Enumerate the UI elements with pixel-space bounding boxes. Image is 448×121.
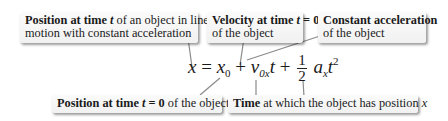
callout-text: Position at time — [57, 96, 142, 110]
callout-text: = 0 — [145, 96, 164, 110]
callout-text: Constant acceleration — [323, 13, 437, 27]
callout-text: motion with constant acceleration — [25, 27, 193, 40]
callout-text: Time — [233, 96, 260, 110]
callout-text: of an object in linear — [113, 13, 218, 27]
eq-exponent: 2 — [333, 55, 339, 67]
callout-var: x — [422, 96, 427, 110]
frac-num: 1 — [297, 53, 307, 69]
eq-plus: + — [235, 56, 246, 77]
callout-text: Position at time — [25, 13, 110, 27]
kinematic-equation: x = x0 + v0xt + 12 axt2 — [188, 53, 339, 84]
eq-v-sub: 0x — [259, 67, 269, 79]
eq-x0-sub: 0 — [225, 67, 231, 79]
callout-text: of the object — [165, 96, 230, 110]
eq-v: v — [251, 56, 259, 77]
callout-time: Time at which the object has position x — [228, 95, 418, 113]
callout-text: of the object — [323, 27, 421, 40]
callout-text: = 0 — [300, 13, 319, 27]
callout-text: at which the object has position — [260, 96, 422, 110]
eq-x: x — [188, 56, 196, 77]
eq-t: t — [270, 56, 275, 77]
callout-position-at-time-0: Position at time t = 0 of the object — [52, 95, 222, 113]
callout-constant-acceleration: Constant acceleration of the object — [318, 12, 426, 43]
callout-velocity-at-time-0: Velocity at time t = 0 of the object — [207, 12, 303, 43]
eq-fraction: 12 — [297, 53, 307, 84]
callout-text: Velocity at time — [212, 13, 297, 27]
eq-a: a — [313, 56, 323, 77]
callout-text: of the object — [212, 27, 298, 40]
eq-x0: x — [217, 56, 225, 77]
eq-plus: + — [280, 56, 291, 77]
frac-den: 2 — [297, 69, 307, 84]
eq-equals: = — [201, 56, 212, 77]
callout-position-at-time-t: Position at time t of an object in linea… — [20, 12, 198, 43]
